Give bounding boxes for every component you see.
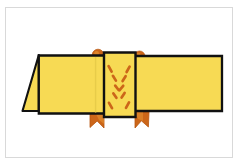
figure-stage: folded-paper-band-diagram bbox=[0, 0, 239, 166]
left-triangular-flap bbox=[23, 55, 39, 111]
center-panel bbox=[104, 53, 136, 118]
right-panel bbox=[135, 56, 223, 111]
folded-paper-band-illustration: folded-paper-band-diagram bbox=[0, 0, 239, 166]
